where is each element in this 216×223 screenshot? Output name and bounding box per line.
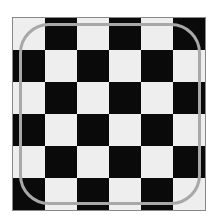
board-cell-light	[173, 50, 205, 82]
board-cell-dark	[173, 82, 205, 114]
board-cell-dark	[141, 178, 173, 210]
board-cell-light	[141, 146, 173, 178]
board-cell-light	[173, 178, 205, 210]
checkerboard	[12, 17, 206, 211]
board-cell-light	[141, 18, 173, 50]
board-cell-dark	[77, 50, 109, 82]
board-cell-light	[141, 82, 173, 114]
board-cell-dark	[77, 178, 109, 210]
board-cell-light	[77, 82, 109, 114]
board-cell-dark	[13, 178, 45, 210]
board-cell-dark	[109, 18, 141, 50]
board-cell-light	[13, 82, 45, 114]
board-cell-light	[13, 146, 45, 178]
board-cell-light	[45, 50, 77, 82]
board-cell-dark	[77, 114, 109, 146]
board-cell-light	[109, 114, 141, 146]
board-cell-dark	[173, 146, 205, 178]
board-cell-dark	[141, 50, 173, 82]
board-cell-dark	[109, 146, 141, 178]
board-cell-light	[45, 114, 77, 146]
board-cell-light	[77, 18, 109, 50]
board-cell-light	[13, 18, 45, 50]
board-cell-dark	[109, 82, 141, 114]
board-cell-light	[109, 50, 141, 82]
board-cell-light	[173, 114, 205, 146]
board-cell-light	[45, 178, 77, 210]
board-cell-dark	[45, 82, 77, 114]
board-cell-dark	[13, 114, 45, 146]
board-cell-light	[77, 146, 109, 178]
board-cell-dark	[45, 18, 77, 50]
board-cell-dark	[173, 18, 205, 50]
board-cell-dark	[13, 50, 45, 82]
board-cell-dark	[141, 114, 173, 146]
board-cell-dark	[45, 146, 77, 178]
board-cell-light	[109, 178, 141, 210]
